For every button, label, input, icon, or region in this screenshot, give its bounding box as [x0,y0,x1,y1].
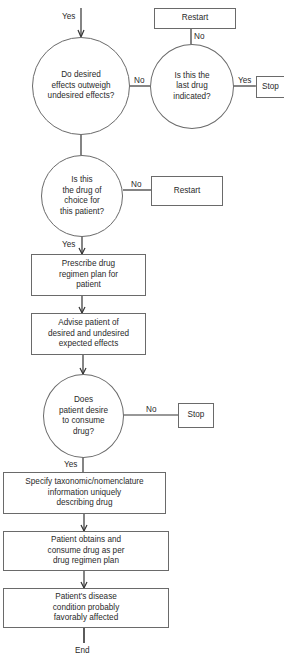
decision-text: Does patient desire to consume drug? [59,395,108,437]
decision-last-drug-indicated: Is this the last drug indicated? [150,44,234,129]
restart-box-top: Restart [154,8,236,29]
edge-label-choice-yes: Yes [62,240,75,250]
decision-text: Is this the last drug indicated? [173,71,210,103]
stop-box-top: Stop [256,76,284,98]
process-specify-taxonomic-info: Specify taxonomic/nomenclature informati… [3,472,166,514]
restart-text: Restart [174,186,200,197]
process-disease-favorably-affected: Patient's disease condition probably fav… [3,588,169,628]
end-label: End [75,646,90,656]
decision-drug-of-choice: Is this the drug of choice for this pati… [41,155,123,237]
stop-box-middle: Stop [178,403,214,428]
edge-label-consume-no: No [146,405,156,415]
decision-text: Is this the drug of choice for this pati… [60,175,104,217]
edge-label-entry-yes: Yes [62,12,75,22]
process-patient-obtains-drug: Patient obtains and consume drug as per … [3,531,169,571]
process-text: Patient obtains and consume drug as per … [48,535,125,567]
stop-text: Stop [262,82,279,93]
decision-patient-desires-consume: Does patient desire to consume drug? [43,374,124,458]
edge-label-outweigh-no: No [134,76,144,86]
decision-text: Do desired effects outweigh undesired ef… [48,70,115,102]
edge-label-consume-yes: Yes [64,460,77,470]
process-prescribe-regimen: Prescribe drug regimen plan for patient [31,254,146,296]
edge-label-last-drug-yes: Yes [238,76,251,86]
edge-label-last-drug-no: No [194,32,204,42]
flowchart: Yes Do desired effects outweigh undesire… [0,0,284,657]
decision-desired-outweigh-undesired: Do desired effects outweigh undesired ef… [32,37,130,135]
process-text: Patient's disease condition probably fav… [53,592,119,624]
process-text: Advise patient of desired and undesired … [48,318,129,350]
process-text: Specify taxonomic/nomenclature informati… [25,477,143,509]
process-text: Prescribe drug regimen plan for patient [59,259,118,291]
process-advise-patient: Advise patient of desired and undesired … [31,313,146,355]
stop-text: Stop [188,410,205,421]
restart-text: Restart [182,13,208,24]
restart-box-middle: Restart [151,176,223,206]
edge-label-choice-no: No [131,180,141,190]
